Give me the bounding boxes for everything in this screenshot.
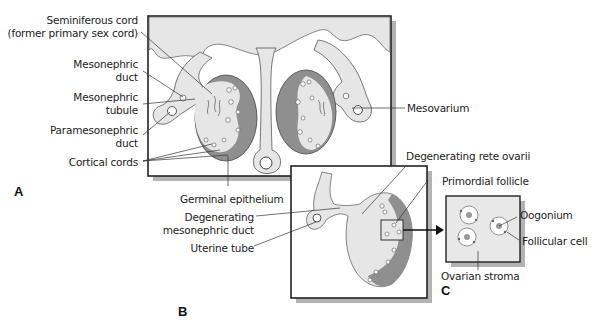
label-germinal-epithelium: Germinal epithelium [180, 193, 283, 206]
label-line: duct [73, 71, 138, 84]
label-line: Seminiferous cord [7, 14, 138, 27]
label-uterine-tube: Uterine tube [191, 242, 254, 255]
panel-c [446, 196, 525, 267]
label-line: Paramesonephric [50, 124, 138, 137]
panel-letter-b: B [178, 304, 187, 319]
label-line: (former primary sex cord) [7, 27, 138, 40]
label-follicular-cell: Follicular cell [522, 235, 587, 248]
label-line: duct [50, 137, 138, 150]
label-line: Degenerating [163, 211, 254, 224]
panel-a [148, 16, 396, 181]
label-degenerating-mesonephric-duct: Degenerating mesonephric duct [163, 211, 254, 236]
panel-letter-a: A [14, 184, 23, 199]
label-paramesonephric-duct: Paramesonephric duct [50, 124, 138, 149]
label-line: Mesonephric [73, 58, 138, 71]
label-seminiferous-cord: Seminiferous cord (former primary sex co… [7, 14, 138, 39]
label-ovarian-stroma: Ovarian stroma [441, 270, 520, 283]
label-cortical-cords: Cortical cords [69, 156, 138, 169]
label-mesonephric-tubule: Mesonephric tubule [73, 91, 138, 116]
label-mesovarium: Mesovarium [407, 102, 469, 115]
label-oogonium: Oogonium [520, 209, 573, 222]
label-line: tubule [73, 104, 138, 117]
panel-b [291, 166, 444, 303]
label-mesonephric-duct: Mesonephric duct [73, 58, 138, 83]
label-primordial-follicle: Primordial follicle [442, 175, 529, 188]
label-line: Mesonephric [73, 91, 138, 104]
panel-letter-c: C [441, 283, 450, 298]
label-line: mesonephric duct [163, 224, 254, 237]
label-degenerating-rete-ovarii: Degenerating rete ovarii [406, 150, 530, 163]
